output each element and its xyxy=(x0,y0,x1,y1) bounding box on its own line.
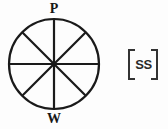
label-top-p: P xyxy=(0,2,108,16)
wheel-spokes-group xyxy=(9,19,99,109)
figure-root: P W SS xyxy=(0,0,168,129)
bracket-label-ss: SS xyxy=(127,48,159,81)
label-bottom-w: W xyxy=(0,112,108,126)
bracket-annotation: SS xyxy=(127,48,159,81)
